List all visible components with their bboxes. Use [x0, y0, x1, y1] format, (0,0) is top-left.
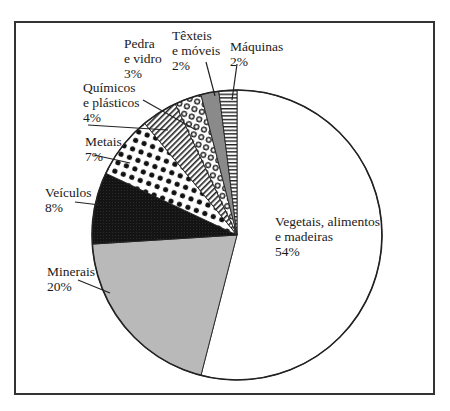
label-text: Químicos — [83, 80, 140, 95]
label-text: Metais — [85, 134, 122, 149]
label-text: e vidro — [124, 51, 162, 66]
label-vegetais-alimentos-madeiras: Vegetais, alimentos e madeiras 54% — [275, 214, 380, 259]
label-percent: 20% — [47, 279, 95, 294]
label-metais: Metais 7% — [85, 134, 122, 164]
label-text: Veículos — [45, 185, 92, 200]
label-pedra-e-vidro: Pedra e vidro 3% — [124, 36, 162, 81]
label-text: e madeiras — [275, 229, 380, 244]
label-veiculos: Veículos 8% — [45, 185, 92, 215]
label-text: Vegetais, alimentos — [275, 214, 380, 229]
label-text: Têxteis — [172, 28, 220, 43]
label-text: Pedra — [124, 36, 162, 51]
label-text: Máquinas — [230, 39, 283, 54]
label-percent: 54% — [275, 244, 380, 259]
label-percent: 8% — [45, 200, 92, 215]
label-minerais: Minerais 20% — [47, 264, 95, 294]
label-quimicos-e-plasticos: Químicos e plásticos 4% — [83, 80, 140, 125]
label-percent: 2% — [230, 54, 283, 69]
label-percent: 7% — [85, 149, 122, 164]
label-text: e plásticos — [83, 95, 140, 110]
label-percent: 2% — [172, 58, 220, 73]
label-texteis-e-moveis: Têxteis e móveis 2% — [172, 28, 220, 73]
label-text: e móveis — [172, 43, 220, 58]
label-percent: 4% — [83, 110, 140, 125]
label-percent: 3% — [124, 66, 162, 81]
label-text: Minerais — [47, 264, 95, 279]
label-maquinas: Máquinas 2% — [230, 39, 283, 69]
